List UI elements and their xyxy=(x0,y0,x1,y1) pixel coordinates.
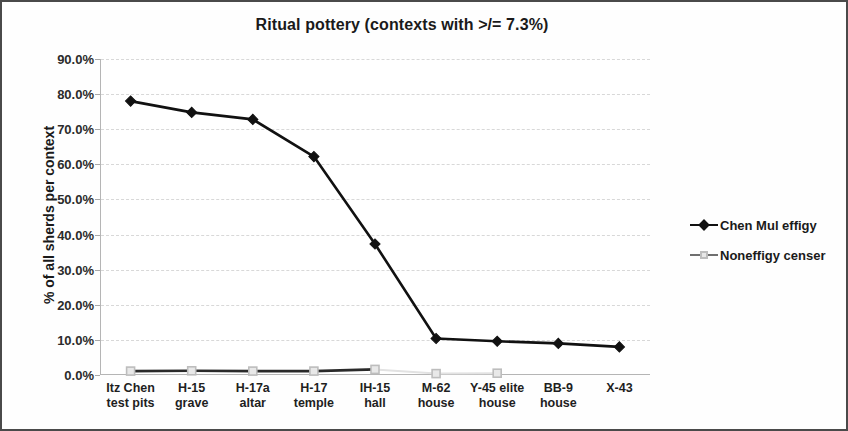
x-axis-tick-label-line: house xyxy=(406,396,467,411)
x-axis-tick-label-line: grave xyxy=(161,396,222,411)
x-axis-tick-label-line: M-62 xyxy=(406,381,467,396)
x-axis-tick-label-line: house xyxy=(467,396,528,411)
data-point-marker xyxy=(310,367,318,375)
x-axis-tick-label: BB-9house xyxy=(528,381,589,411)
y-axis-tick-label: 20.0% xyxy=(8,297,94,312)
y-axis-tick-label: 30.0% xyxy=(8,262,94,277)
y-axis-tick-label: 60.0% xyxy=(8,157,94,172)
x-axis-tick-label: M-62house xyxy=(406,381,467,411)
data-point-marker xyxy=(493,369,501,377)
x-axis-tick-label-line: Y-45 elite xyxy=(467,381,528,396)
x-axis-tick-label-line: house xyxy=(528,396,589,411)
legend-item[interactable]: Chen Mul effigy xyxy=(690,210,840,240)
data-point-marker xyxy=(492,336,502,346)
x-axis-tick-label-line: temple xyxy=(283,396,344,411)
x-axis-tick-label: H-15grave xyxy=(161,381,222,411)
legend-item-label: Chen Mul effigy xyxy=(720,218,817,233)
diamond-marker-icon xyxy=(690,219,718,231)
y-axis-tick-label: 40.0% xyxy=(8,227,94,242)
series-layer xyxy=(100,59,650,375)
data-point-marker xyxy=(553,338,563,348)
series-chen-mul-effigy xyxy=(126,96,625,352)
x-axis-tick-label-line: H-15 xyxy=(161,381,222,396)
data-point-marker xyxy=(127,367,135,375)
data-point-marker xyxy=(187,107,197,117)
y-axis-tick-label: 10.0% xyxy=(8,332,94,347)
x-axis-tick-label-line: X-43 xyxy=(589,381,650,396)
x-axis-tick-label-line: altar xyxy=(222,396,283,411)
data-point-marker xyxy=(371,365,379,373)
x-axis-tick-label-line: H-17a xyxy=(222,381,283,396)
x-axis-tick-label: Itz Chentest pits xyxy=(100,381,161,411)
x-axis-tick-label-line: test pits xyxy=(100,396,161,411)
x-axis-tick-label-line: Itz Chen xyxy=(100,381,161,396)
x-axis-tick-label: X-43 xyxy=(589,381,650,396)
series-line xyxy=(131,101,620,347)
square-marker-icon xyxy=(690,249,718,261)
x-axis-tick-label-line: IH-15 xyxy=(344,381,405,396)
x-axis-tick-label: H-17aaltar xyxy=(222,381,283,411)
data-point-marker xyxy=(432,370,440,378)
y-axis-tick-label: 0.0% xyxy=(8,368,94,383)
data-point-marker xyxy=(249,367,257,375)
y-axis-title: % of all sherds per context xyxy=(41,75,57,355)
y-axis-tick-label: 70.0% xyxy=(8,122,94,137)
x-axis-tick-label-line: hall xyxy=(344,396,405,411)
x-axis-tick-label: IH-15hall xyxy=(344,381,405,411)
data-point-marker xyxy=(188,367,196,375)
series-noneffigy-censer xyxy=(127,365,502,377)
chart-legend: Chen Mul effigyNoneffigy censer xyxy=(690,210,840,270)
legend-key-marker xyxy=(698,219,709,230)
y-axis-tick-label: 90.0% xyxy=(8,52,94,67)
y-axis-tick-mark xyxy=(95,375,100,376)
legend-item-label: Noneffigy censer xyxy=(720,248,825,263)
chart-frame: Ritual pottery (contexts with >/= 7.3%) … xyxy=(0,0,848,431)
chart-title: Ritual pottery (contexts with >/= 7.3%) xyxy=(122,16,682,34)
y-axis-tick-label: 80.0% xyxy=(8,87,94,102)
legend-key-marker xyxy=(700,251,708,259)
x-axis-tick-label: H-17temple xyxy=(283,381,344,411)
data-point-marker xyxy=(126,96,136,106)
x-axis-tick-label: Y-45 elitehouse xyxy=(467,381,528,411)
y-axis-tick-label: 50.0% xyxy=(8,192,94,207)
data-point-marker xyxy=(614,342,624,352)
x-axis-tick-label-line: BB-9 xyxy=(528,381,589,396)
legend-item[interactable]: Noneffigy censer xyxy=(690,240,840,270)
x-axis-tick-label-line: H-17 xyxy=(283,381,344,396)
